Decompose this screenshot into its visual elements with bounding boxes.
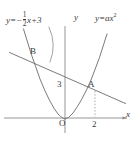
fraction-denominator: 2 xyxy=(23,19,27,28)
line-curve xyxy=(10,53,126,104)
line-equation-prefix: y=− xyxy=(6,15,22,25)
y-tick-label-3: 3 xyxy=(57,80,62,89)
line-equation-label: y=−12x+3 xyxy=(6,11,41,28)
math-figure: y=−12x+3 y=ax2 y x 3 2 O A B xyxy=(0,0,136,155)
origin-label: O xyxy=(59,119,66,128)
x-tick-label-2: 2 xyxy=(92,120,97,129)
y-axis-label: y xyxy=(74,13,78,22)
point-b-label: B xyxy=(30,47,36,56)
parabola-equation-label: y=ax2 xyxy=(95,12,117,23)
parabola-equation-text: y=ax xyxy=(95,13,114,23)
line-equation-fraction: 12 xyxy=(23,11,27,28)
parabola-exponent: 2 xyxy=(114,12,117,18)
fraction-numerator: 1 xyxy=(23,11,27,19)
line-equation-suffix: x+3 xyxy=(27,15,42,25)
x-axis-label: x xyxy=(126,110,130,119)
point-a-label: A xyxy=(88,80,95,89)
leader-arc-icon xyxy=(49,27,53,62)
